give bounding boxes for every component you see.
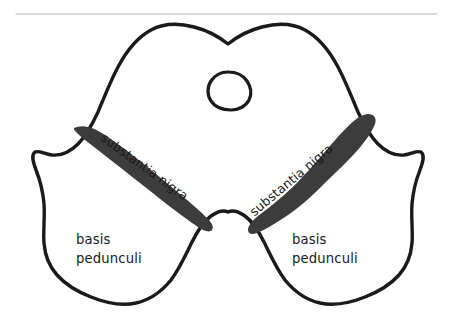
- basis-pedunculi-right-line2: pedunculi: [292, 251, 358, 266]
- diagram-canvas: substantia nigra substantia nigra basis …: [0, 0, 452, 326]
- basis-pedunculi-left-line2: pedunculi: [76, 251, 142, 266]
- basis-pedunculi-left-line1: basis: [76, 232, 111, 247]
- basis-pedunculi-right-line1: basis: [292, 232, 327, 247]
- midbrain-diagram: substantia nigra substantia nigra basis …: [0, 0, 452, 326]
- cerebral-aqueduct: [208, 72, 251, 110]
